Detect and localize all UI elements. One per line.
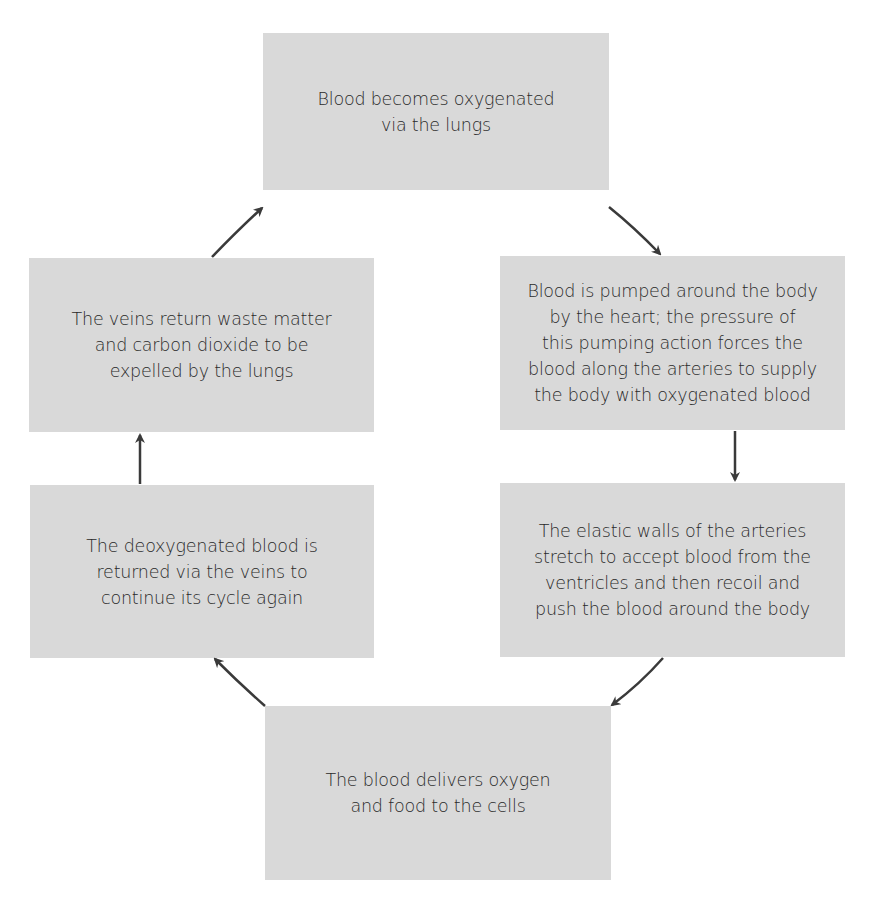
arrow-icon: [612, 658, 663, 705]
arrow-icon: [215, 659, 265, 706]
arrow-icon: [609, 207, 660, 254]
cycle-arrows: [0, 0, 875, 904]
arrow-icon: [212, 208, 262, 257]
